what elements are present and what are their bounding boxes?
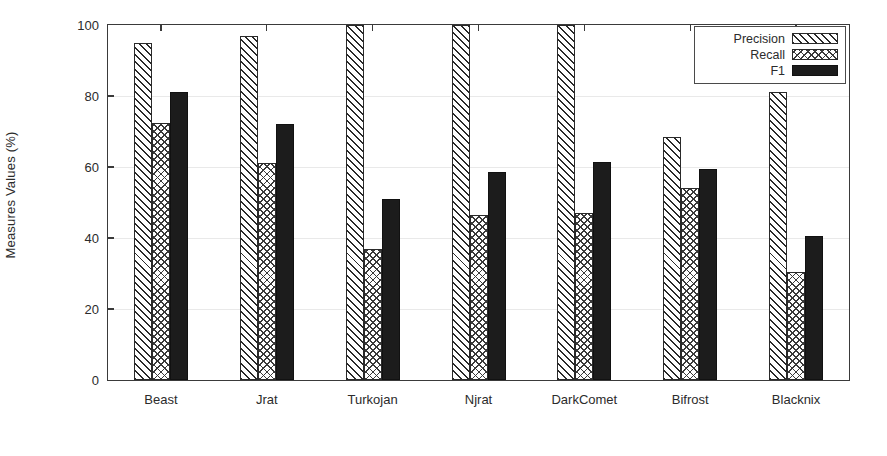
x-tick-mark (266, 25, 267, 31)
bar-beast-recall (152, 123, 170, 380)
y-gridline (108, 96, 849, 97)
bar-jrat-f1 (276, 124, 294, 380)
y-axis-title: Measures Values (%) (0, 0, 22, 390)
legend-item-recall: Recall (702, 47, 838, 62)
legend-item-f1: F1 (702, 63, 838, 78)
bar-darkcomet-precision (557, 25, 575, 380)
x-axis-label-blacknix: Blacknix (772, 392, 820, 407)
x-axis-label-beast: Beast (144, 392, 177, 407)
legend-swatch-precision-icon (792, 33, 838, 44)
bar-jrat-precision (240, 36, 258, 380)
bar-bifrost-f1 (699, 169, 717, 380)
bar-blacknix-f1 (805, 236, 823, 380)
legend-swatch-f1-icon (792, 65, 838, 76)
x-axis-label-darkcomet: DarkComet (551, 392, 617, 407)
x-tick-mark (478, 25, 479, 31)
bar-darkcomet-f1 (593, 162, 611, 380)
x-axis-label-turkojan: Turkojan (348, 392, 398, 407)
x-tick-mark (690, 25, 691, 31)
y-tick-label: 20 (85, 302, 99, 317)
y-tick-label: 0 (92, 373, 99, 388)
x-axis-label-bifrost: Bifrost (672, 392, 709, 407)
y-tick-mark (108, 166, 114, 167)
bar-turkojan-precision (346, 25, 364, 380)
legend-item-precision: Precision (702, 31, 838, 46)
bar-bifrost-recall (681, 188, 699, 380)
bar-blacknix-precision (769, 92, 787, 380)
x-tick-mark (160, 25, 161, 31)
bar-blacknix-recall (787, 272, 805, 380)
bar-jrat-recall (258, 163, 276, 380)
bar-turkojan-recall (364, 249, 382, 380)
x-axis-label-jrat: Jrat (256, 392, 278, 407)
y-tick-label: 80 (85, 89, 99, 104)
y-tick-label: 40 (85, 231, 99, 246)
legend-label-recall: Recall (750, 48, 785, 62)
bar-beast-precision (134, 43, 152, 380)
bar-njrat-recall (470, 215, 488, 380)
x-axis-label-njrat: Njrat (465, 392, 492, 407)
bar-njrat-f1 (488, 172, 506, 380)
bar-bifrost-precision (663, 137, 681, 380)
bar-darkcomet-recall (575, 213, 593, 380)
bar-njrat-precision (452, 25, 470, 380)
legend: Precision Recall F1 (694, 26, 846, 84)
bar-beast-f1 (170, 92, 188, 380)
y-tick-mark (108, 237, 114, 238)
legend-label-f1: F1 (770, 64, 785, 78)
legend-swatch-recall-icon (792, 49, 838, 60)
y-gridline (108, 167, 849, 168)
y-tick-mark (108, 308, 114, 309)
bar-turkojan-f1 (382, 199, 400, 380)
y-tick-label: 100 (77, 18, 99, 33)
legend-label-precision: Precision (734, 32, 785, 46)
x-tick-mark (372, 25, 373, 31)
y-tick-mark (108, 95, 114, 96)
x-tick-mark (584, 25, 585, 31)
bar-chart: Measures Values (%) 020406080100BeastJra… (0, 0, 887, 456)
y-tick-label: 60 (85, 160, 99, 175)
